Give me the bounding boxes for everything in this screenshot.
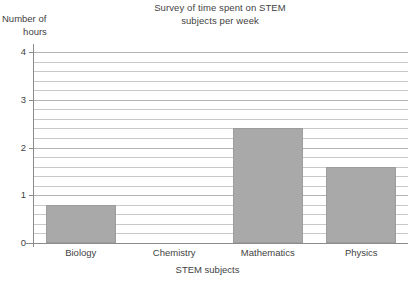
- gridline-major: [34, 52, 408, 53]
- gridline-minor: [34, 128, 408, 129]
- chart-title: Survey of time spent on STEM subjects pe…: [115, 2, 325, 27]
- y-axis-tick-label: 2: [4, 143, 26, 153]
- gridline-minor: [34, 138, 408, 139]
- gridline-minor: [34, 71, 408, 72]
- x-axis-line: [26, 243, 408, 244]
- x-axis-tick-label: Chemistry: [124, 247, 224, 258]
- gridline-minor: [34, 90, 408, 91]
- x-axis-tick-label: Physics: [311, 247, 411, 258]
- gridline-minor: [34, 109, 408, 110]
- y-axis-tick: [29, 100, 34, 101]
- y-axis-title: Number of hours: [2, 12, 74, 38]
- y-axis-title-line-2: hours: [2, 25, 74, 38]
- y-axis-tick-label: 1: [4, 190, 26, 200]
- plot-area: [34, 52, 408, 243]
- x-axis-tick-label: Mathematics: [218, 247, 318, 258]
- y-axis-title-line-1: Number of: [2, 12, 74, 25]
- gridline-major: [34, 100, 408, 101]
- y-axis-tick: [29, 195, 34, 196]
- y-axis-tick-label: 0: [4, 238, 26, 248]
- bar: [46, 205, 116, 243]
- y-axis-tick: [29, 52, 34, 53]
- bar: [326, 167, 396, 243]
- bar-chart: Survey of time spent on STEM subjects pe…: [0, 0, 415, 290]
- gridline-minor: [34, 157, 408, 158]
- y-axis-tick-label: 4: [4, 47, 26, 57]
- y-axis-tick: [29, 148, 34, 149]
- gridline-major: [34, 148, 408, 149]
- gridline-minor: [34, 81, 408, 82]
- chart-title-line-1: Survey of time spent on STEM: [154, 2, 286, 13]
- x-axis-title: STEM subjects: [0, 264, 415, 275]
- x-axis-tick-label: Biology: [31, 247, 131, 258]
- bar: [233, 128, 303, 243]
- y-axis-tick-label: 3: [4, 95, 26, 105]
- gridline-minor: [34, 119, 408, 120]
- chart-title-line-2: subjects per week: [181, 15, 259, 26]
- y-axis-tick: [29, 243, 34, 244]
- gridline-minor: [34, 62, 408, 63]
